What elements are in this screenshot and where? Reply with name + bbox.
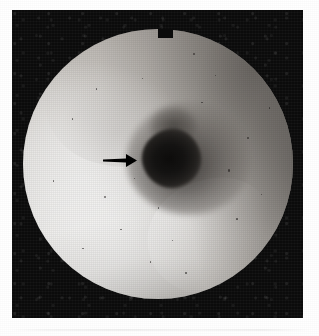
mucosal-speck (185, 272, 187, 274)
endoscope-field-of-view (23, 29, 293, 299)
mucosal-speck (82, 248, 84, 250)
figure-root (0, 0, 319, 336)
photo-frame (12, 10, 303, 318)
mucosal-speck (72, 118, 74, 120)
scan-artifact-line (10, 329, 311, 331)
mucosal-speck (172, 240, 173, 241)
mucosal-speck (236, 218, 238, 220)
mucosal-speck (269, 107, 270, 108)
field-mask-notch (158, 29, 173, 38)
mucosal-speck (247, 137, 249, 139)
